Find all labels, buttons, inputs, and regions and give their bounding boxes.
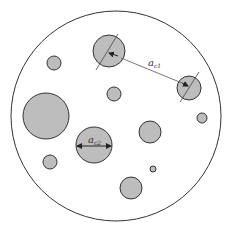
particle — [150, 166, 156, 172]
particle — [107, 87, 121, 101]
particle — [139, 121, 161, 143]
particle — [43, 155, 57, 169]
particle — [47, 56, 61, 70]
particle — [23, 93, 69, 139]
particle-diagram: ac1 ac2 — [0, 0, 232, 228]
particle — [197, 113, 207, 123]
particle — [120, 177, 142, 199]
particle — [93, 35, 125, 67]
